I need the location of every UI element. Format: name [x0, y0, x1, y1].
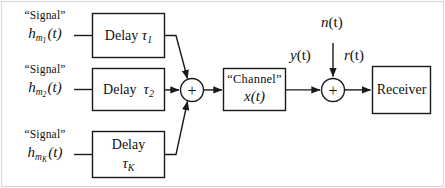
input-signal-3-quoted: “Signal” [14, 128, 76, 141]
summer-1-circle [181, 79, 204, 102]
noise-signal-label: n(t) [321, 14, 343, 31]
input-signal-2-quoted: “Signal” [14, 63, 76, 76]
summer-2-circle [322, 79, 345, 102]
channel-output-signal-label: y(t) [290, 47, 311, 64]
input-signal-2-symbol: hm2 (t) [14, 79, 76, 99]
input-signal-1-symbol: hm1 (t) [14, 25, 76, 45]
input-signal-3-symbol: hmK (t) [14, 144, 76, 164]
input-signal-1: “Signal” hm1 (t) [14, 9, 76, 46]
channel-block-rect [224, 69, 286, 111]
delay-block-3-rect [93, 132, 165, 178]
input-signal-2: “Signal” hm2 (t) [14, 63, 76, 100]
wire-delay-3-to-summer-1 [165, 102, 188, 155]
received-signal-label: r(t) [344, 47, 364, 64]
input-signal-3: “Signal” hmK (t) [14, 128, 76, 165]
delay-block-1-rect [93, 14, 165, 58]
wire-delay-1-to-summer-1 [165, 36, 188, 79]
input-signal-1-quoted: “Signal” [14, 9, 76, 22]
receiver-block-rect [373, 67, 431, 114]
block-diagram: “Signal” hm1 (t) “Signal” hm2 (t) “Signa… [0, 0, 445, 188]
delay-block-2-rect [93, 69, 165, 111]
